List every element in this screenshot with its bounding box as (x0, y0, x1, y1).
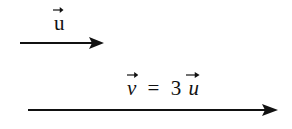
vector-u-label: u (54, 13, 65, 34)
arrows-canvas (0, 0, 292, 129)
vector-v-symbol: v (127, 78, 136, 99)
vector-accent-icon (53, 6, 64, 14)
equals-sign: = (148, 76, 160, 100)
vector-u-symbol-rhs: u (188, 78, 199, 99)
vector-v-equation: v = 3 u (127, 78, 199, 99)
vector-u-arrow (20, 37, 104, 49)
vector-u-symbol: u (54, 13, 65, 34)
vector-accent-icon (186, 71, 200, 79)
vector-accent-icon (127, 71, 138, 79)
vector-v-arrow (28, 104, 278, 116)
coefficient: 3 (171, 76, 182, 100)
